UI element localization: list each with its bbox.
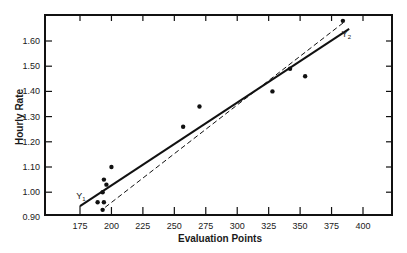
x-tick-label: 300 [230,221,245,231]
data-points [95,19,345,212]
y-tick-label: 0.90 [22,212,40,222]
x-tick-label: 225 [135,221,150,231]
fit-lines [80,22,349,215]
data-point [109,165,113,169]
y-tick-label: 1.00 [22,187,40,197]
data-point [102,177,106,181]
x-tick-label: 275 [198,221,213,231]
dashed-line-y2 [105,22,344,207]
x-tick-label: 400 [355,221,370,231]
x-tick-label: 325 [261,221,276,231]
chart: 175200225250275300325350375400 0.901.001… [0,0,407,253]
data-point [100,190,104,194]
y-tick-label: 1.30 [22,112,40,122]
data-point [303,74,307,78]
data-point [181,124,185,128]
data-point [197,104,201,108]
y-tick-label: 1.10 [22,162,40,172]
x-tick-label: 200 [104,221,119,231]
x-tick-label: 350 [293,221,308,231]
x-axis-ticks: 175200225250275300325350375400 [72,15,370,231]
y-tick-label: 1.50 [22,61,40,71]
line-label: Y1 [76,191,86,202]
line-label: Y2 [342,29,352,40]
y-tick-label: 1.20 [22,137,40,147]
x-axis-title: Evaluation Points [178,233,262,244]
solid-line-y1 [80,29,349,206]
data-point [100,208,104,212]
x-tick-label: 175 [72,221,87,231]
y-tick-label: 1.40 [22,86,40,96]
y-tick-label: 1.60 [22,36,40,46]
y-axis-title: Hourly Rate [14,89,25,146]
data-point [270,89,274,93]
data-point [288,67,292,71]
data-point [102,200,106,204]
data-point [104,182,108,186]
x-tick-label: 375 [324,221,339,231]
data-point [341,19,345,23]
x-tick-label: 250 [167,221,182,231]
data-point [95,200,99,204]
